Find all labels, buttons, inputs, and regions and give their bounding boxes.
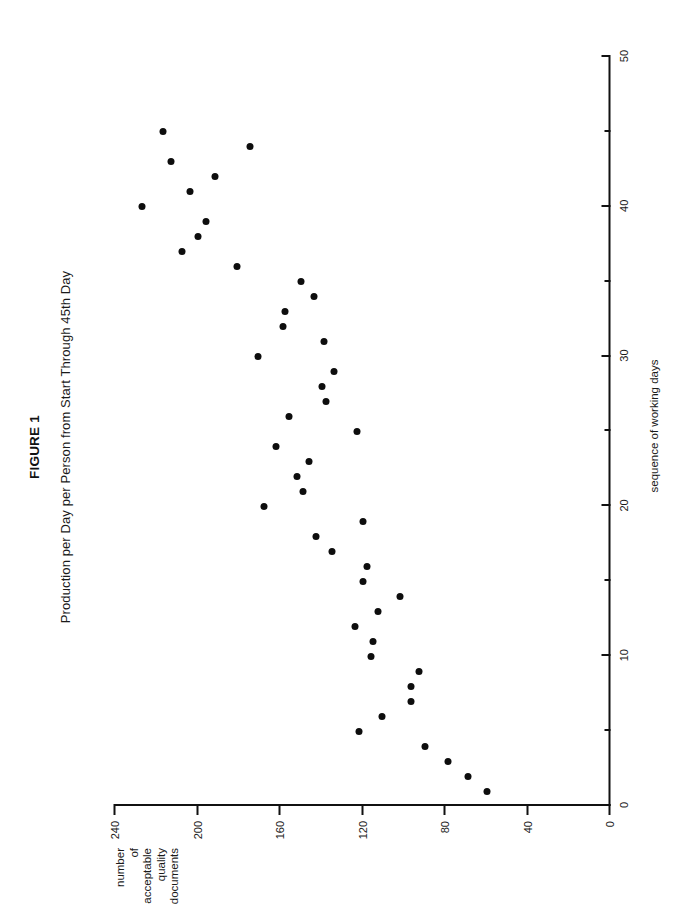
data-point bbox=[322, 398, 329, 405]
y-axis-tick-label: 80 bbox=[438, 821, 450, 833]
x-axis-tick-label: 30 bbox=[617, 349, 629, 361]
data-point bbox=[359, 518, 366, 525]
figure-subtitle: Production per Day per Person from Start… bbox=[57, 0, 72, 894]
data-point bbox=[407, 683, 414, 690]
data-point bbox=[254, 353, 261, 360]
data-point bbox=[351, 623, 358, 630]
data-point bbox=[297, 278, 304, 285]
data-point bbox=[310, 293, 317, 300]
data-point bbox=[407, 698, 414, 705]
x-axis-tick: 20 bbox=[601, 504, 610, 506]
data-point bbox=[293, 473, 300, 480]
data-point bbox=[299, 488, 306, 495]
x-axis-minor-tick bbox=[604, 280, 610, 282]
data-point bbox=[167, 158, 174, 165]
x-axis-tick: 0 bbox=[601, 804, 610, 806]
data-point bbox=[138, 203, 145, 210]
x-axis-tick: 50 bbox=[601, 55, 610, 57]
x-axis-tick: 40 bbox=[601, 205, 610, 207]
x-axis-tick: 10 bbox=[601, 654, 610, 656]
x-axis-minor-tick bbox=[604, 130, 610, 132]
y-axis-title: number of acceptable quality documents bbox=[113, 848, 181, 908]
y-axis-tick-label: 120 bbox=[356, 821, 368, 839]
y-axis-title-line-5: documents bbox=[167, 848, 181, 908]
y-axis-title-line-3: acceptable bbox=[140, 848, 154, 908]
x-axis-tick-label: 10 bbox=[617, 649, 629, 661]
x-axis-tick-label: 40 bbox=[617, 200, 629, 212]
y-axis-title-line-1: number bbox=[113, 848, 127, 908]
data-point bbox=[272, 443, 279, 450]
data-point bbox=[260, 503, 267, 510]
x-axis-tick: 30 bbox=[601, 355, 610, 357]
x-axis-line bbox=[608, 57, 610, 806]
y-axis-tick: 120 bbox=[361, 806, 363, 815]
data-point bbox=[178, 248, 185, 255]
data-point bbox=[355, 728, 362, 735]
x-axis-minor-tick bbox=[604, 430, 610, 432]
data-point bbox=[328, 548, 335, 555]
y-axis-tick-label: 0 bbox=[603, 821, 615, 827]
data-point bbox=[305, 458, 312, 465]
data-point bbox=[464, 773, 471, 780]
y-axis-tick-label: 40 bbox=[521, 821, 533, 833]
data-point bbox=[396, 593, 403, 600]
x-axis-tick-label: 0 bbox=[617, 802, 629, 808]
figure-title: FIGURE 1 bbox=[26, 0, 41, 894]
title-block: FIGURE 1 Production per Day per Person f… bbox=[26, 0, 72, 894]
y-axis-tick: 160 bbox=[278, 806, 280, 815]
y-axis-tick: 80 bbox=[443, 806, 445, 815]
y-axis-title-line-4: quality bbox=[154, 848, 168, 908]
y-axis-tick-label: 240 bbox=[108, 821, 120, 839]
data-point bbox=[194, 233, 201, 240]
x-axis-tick-label: 50 bbox=[617, 50, 629, 62]
data-point bbox=[285, 413, 292, 420]
data-point bbox=[330, 368, 337, 375]
y-axis-tick-label: 160 bbox=[273, 821, 285, 839]
data-point bbox=[279, 323, 286, 330]
y-axis-tick: 40 bbox=[526, 806, 528, 815]
data-point bbox=[312, 533, 319, 540]
data-point bbox=[246, 143, 253, 150]
data-point bbox=[202, 218, 209, 225]
scatter-plot: 04080120160200240 01020304050 bbox=[113, 46, 618, 806]
data-point bbox=[363, 563, 370, 570]
data-point bbox=[378, 713, 385, 720]
data-point bbox=[444, 758, 451, 765]
data-point bbox=[415, 668, 422, 675]
data-point bbox=[374, 608, 381, 615]
y-axis-tick: 240 bbox=[113, 806, 115, 815]
x-axis-minor-tick bbox=[604, 579, 610, 581]
y-axis-title-line-2: of bbox=[127, 848, 141, 908]
x-axis-tick-label: 20 bbox=[617, 499, 629, 511]
y-axis-tick: 200 bbox=[196, 806, 198, 815]
data-point bbox=[367, 653, 374, 660]
data-point bbox=[320, 338, 327, 345]
data-point bbox=[359, 578, 366, 585]
x-axis-title: sequence of working days bbox=[647, 46, 659, 806]
y-axis-tick-label: 200 bbox=[191, 821, 203, 839]
data-point bbox=[421, 743, 428, 750]
x-axis-minor-tick bbox=[604, 729, 610, 731]
y-axis-tick: 0 bbox=[608, 806, 610, 815]
data-point bbox=[159, 128, 166, 135]
data-point bbox=[483, 788, 490, 795]
data-point bbox=[233, 263, 240, 270]
data-point bbox=[281, 308, 288, 315]
data-point bbox=[353, 428, 360, 435]
data-point bbox=[318, 383, 325, 390]
data-point bbox=[369, 638, 376, 645]
data-point bbox=[211, 173, 218, 180]
data-point bbox=[186, 188, 193, 195]
